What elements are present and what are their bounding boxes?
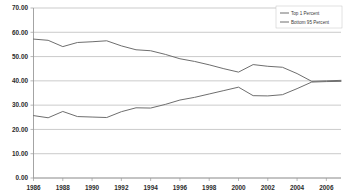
y-tick-label: 50.00 [12,53,28,60]
series-line-1 [34,39,342,81]
chart-canvas: 0.0010.0020.0030.0040.0050.0060.0070.00 … [0,0,345,196]
y-tick-label: 70.00 [12,4,28,11]
y-axis-ticks: 0.0010.0020.0030.0040.0050.0060.0070.00 [12,4,34,181]
x-tick-label: 1990 [85,184,100,191]
y-tick-label: 40.00 [12,77,28,84]
x-tick-label: 2006 [319,184,334,191]
y-tick-label: 60.00 [12,29,28,36]
legend-label-2: Bottom 95 Percent [291,20,330,25]
x-tick-label: 2004 [290,184,305,191]
x-tick-label: 1996 [173,184,188,191]
x-tick-label: 2002 [261,184,276,191]
x-tick-label: 1998 [202,184,217,191]
line-chart: 0.0010.0020.0030.0040.0050.0060.0070.00 … [0,0,345,196]
gridlines-group [34,8,342,178]
y-tick-label: 10.00 [12,150,28,157]
y-tick-label: 20.00 [12,126,28,133]
series-line-2 [34,81,342,117]
x-tick-label: 1988 [56,184,71,191]
x-tick-label: 1992 [114,184,129,191]
y-tick-label: 0.00 [16,174,29,181]
series-group [34,39,342,118]
legend: Top 1 PercentBottom 95 Percent [276,6,342,28]
y-tick-label: 30.00 [12,101,28,108]
legend-label-1: Top 1 Percent [291,11,320,16]
x-tick-label: 1994 [144,184,159,191]
x-tick-label: 2000 [231,184,246,191]
x-tick-label: 1986 [26,184,41,191]
x-axis-ticks: 1986198819901992199419961998200020022004… [26,178,334,191]
